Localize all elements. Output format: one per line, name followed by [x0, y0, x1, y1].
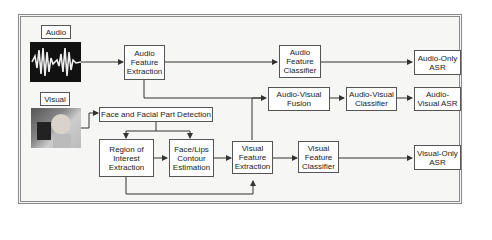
- visual-feature-classifier-box: Visual Feature Classifier: [298, 141, 339, 173]
- audio-feature-extraction-box: Audio Feature Extraction: [124, 45, 165, 80]
- roi-extraction-box: Region of Interest Extraction: [99, 139, 154, 177]
- audio-visual-fusion-box: Audio-Visual Fusion: [268, 87, 330, 111]
- audio-visual-asr-box: Audio- Visual ASR: [414, 87, 461, 111]
- audio-visual-classifier-box: Audio-Visual Classifier: [346, 87, 397, 111]
- visual-feature-extraction-box: Visual Feature Extraction: [232, 141, 273, 174]
- visual-only-asr-box: Visual-Only ASR: [414, 145, 461, 170]
- audio-only-asr-box: Audio-Only ASR: [414, 50, 461, 75]
- face-detection-box: Face and Facial Part Detection: [99, 107, 213, 122]
- audio-feature-classifier-box: Audio Feature Classifier: [279, 45, 321, 78]
- contour-estimation-box: Face/Lips Contour Estimation: [169, 139, 214, 177]
